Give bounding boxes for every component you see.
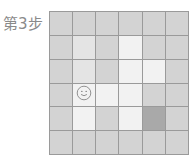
grid-cell <box>50 107 72 130</box>
grid-cell <box>119 12 141 35</box>
grid-cell <box>119 36 141 59</box>
grid-cell <box>96 107 118 130</box>
grid-world <box>49 11 189 155</box>
grid-cell <box>166 84 188 107</box>
grid-cell <box>119 84 141 107</box>
grid-cell <box>50 131 72 154</box>
grid-cell <box>73 60 95 83</box>
step-label: 第3步 <box>3 15 43 33</box>
grid-cell <box>143 36 165 59</box>
grid-cell <box>50 60 72 83</box>
grid-cell <box>143 131 165 154</box>
grid-cell <box>73 107 95 130</box>
grid-cell <box>119 107 141 130</box>
grid-cell <box>73 36 95 59</box>
grid-cell <box>96 36 118 59</box>
grid-cell <box>50 84 72 107</box>
grid-cell <box>166 107 188 130</box>
grid-cell <box>143 107 165 130</box>
grid-cell <box>96 60 118 83</box>
grid-cell <box>166 60 188 83</box>
grid-cell <box>96 12 118 35</box>
smiley-face-icon <box>76 85 92 105</box>
grid-cell <box>143 60 165 83</box>
grid-cell <box>73 12 95 35</box>
grid-cell <box>96 84 118 107</box>
grid-cell <box>143 12 165 35</box>
grid-cell <box>50 36 72 59</box>
grid-cell <box>50 12 72 35</box>
grid-cell <box>73 84 95 107</box>
grid-cell <box>166 36 188 59</box>
grid-cell <box>73 131 95 154</box>
grid-cell <box>166 131 188 154</box>
grid-cell <box>119 60 141 83</box>
grid-cell <box>143 84 165 107</box>
grid-cell <box>166 12 188 35</box>
grid-cell <box>96 131 118 154</box>
grid-cell <box>119 131 141 154</box>
